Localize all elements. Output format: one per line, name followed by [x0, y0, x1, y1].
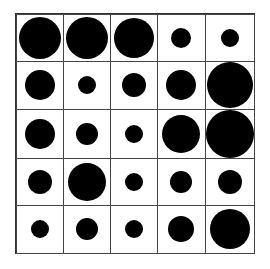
circle-icon [125, 125, 143, 143]
circle-icon [221, 29, 239, 47]
circle-icon [19, 17, 61, 59]
dot-grid [15, 13, 255, 254]
grid-cell [63, 205, 111, 254]
circle-icon [125, 173, 143, 191]
grid-cell [16, 109, 64, 159]
circle-icon [166, 70, 196, 100]
grid-cell [110, 61, 158, 110]
grid-cell [16, 158, 64, 207]
grid-cell [157, 109, 205, 159]
grid-cell [16, 14, 64, 63]
circle-icon [218, 170, 242, 194]
circle-icon [171, 28, 191, 48]
grid-cell [110, 205, 158, 254]
grid-cell [63, 109, 111, 159]
grid-cell [157, 205, 205, 254]
grid-cell [205, 14, 255, 63]
circle-icon [168, 216, 194, 242]
circle-icon [66, 17, 108, 59]
grid-cell [110, 109, 158, 159]
grid-cell [63, 61, 111, 110]
circle-icon [25, 70, 55, 100]
circle-icon [28, 170, 52, 194]
circle-icon [162, 115, 200, 153]
circle-icon [114, 18, 154, 58]
grid-cell [63, 158, 111, 207]
circle-icon [207, 62, 253, 108]
grid-cell [157, 158, 205, 207]
grid-cell [157, 61, 205, 110]
grid-cell [16, 61, 64, 110]
circle-icon [31, 220, 49, 238]
circle-icon [170, 171, 192, 193]
circle-icon [122, 73, 146, 97]
circle-icon [68, 163, 106, 201]
circle-icon [125, 220, 143, 238]
circle-icon [76, 123, 98, 145]
grid-cell [110, 158, 158, 207]
circle-icon [206, 110, 254, 158]
grid-cell [157, 14, 205, 63]
grid-cell [205, 158, 255, 207]
circle-icon [210, 209, 250, 249]
circle-icon [78, 76, 96, 94]
grid-cell [16, 205, 64, 254]
grid-cell [205, 109, 255, 159]
circle-icon [76, 218, 98, 240]
grid-cell [110, 14, 158, 63]
circle-icon [25, 119, 55, 149]
grid-cell [205, 61, 255, 110]
grid-cell [205, 205, 255, 254]
grid-cell [63, 14, 111, 63]
